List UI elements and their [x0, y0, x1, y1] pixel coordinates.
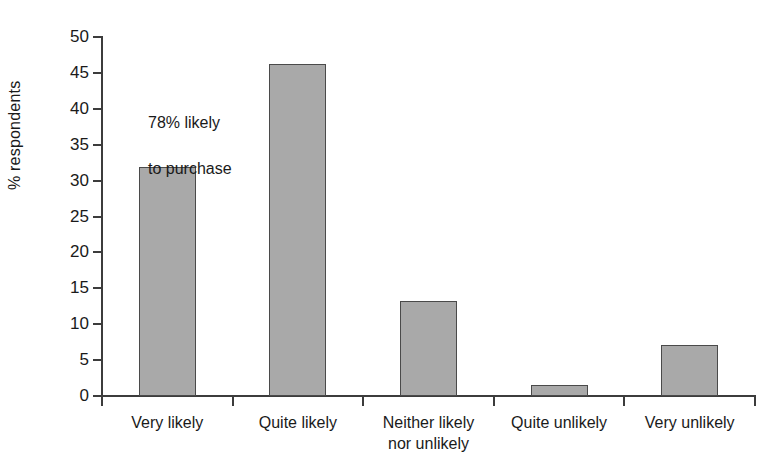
y-axis-tick-label-text: 25	[45, 208, 89, 225]
annotation-purchase-intent: 78% likely to purchase	[148, 88, 232, 203]
x-axis-category-label: Neither likelynor unlikely	[357, 412, 500, 454]
y-axis-tick-label: 20	[39, 243, 89, 260]
x-axis-category-label: Very likely	[96, 412, 239, 433]
y-axis-tick-label-text: 20	[45, 243, 89, 260]
y-axis-tick	[93, 323, 101, 325]
x-axis-category-label-line: Quite unlikely	[488, 412, 631, 433]
y-axis-tick-label: 30	[39, 172, 89, 189]
y-axis-tick-label-text: 45	[45, 64, 89, 81]
x-axis-tick	[623, 397, 625, 406]
x-axis-category-label: Very unlikely	[618, 412, 761, 433]
y-axis-tick	[93, 216, 101, 218]
y-axis-tick-label: 50	[39, 28, 89, 45]
y-axis-tick	[93, 36, 101, 38]
x-axis-category-label-line: Very likely	[96, 412, 239, 433]
x-axis-category-label-line: Quite likely	[227, 412, 370, 433]
y-axis-tick	[93, 287, 101, 289]
x-axis-category-label-line: Neither likely	[357, 412, 500, 433]
y-axis-tick	[93, 72, 101, 74]
y-axis-line	[101, 36, 103, 397]
y-axis-tick	[93, 395, 101, 397]
y-axis-tick-label-text: 50	[45, 28, 89, 45]
x-axis-tick	[754, 397, 756, 406]
x-axis-category-label: Quite likely	[227, 412, 370, 433]
bar	[400, 301, 457, 396]
plot-area: 50454035302520151050 Very likelyQuite li…	[0, 0, 782, 475]
x-axis-tick	[493, 397, 495, 406]
annotation-line-2: to purchase	[148, 157, 232, 180]
y-axis-tick	[93, 251, 101, 253]
y-axis-tick-label: 0	[39, 387, 89, 404]
y-axis-tick-label-text: 0	[45, 387, 89, 404]
x-axis-category-label: Quite unlikely	[488, 412, 631, 433]
y-axis-tick	[93, 108, 101, 110]
y-axis-tick	[93, 359, 101, 361]
annotation-line-1: 78% likely	[148, 111, 232, 134]
x-axis-tick	[232, 397, 234, 406]
bar	[269, 64, 326, 396]
y-axis-tick-label: 35	[39, 136, 89, 153]
x-axis-tick	[362, 397, 364, 406]
y-axis-tick-label-text: 5	[45, 351, 89, 368]
y-axis-tick-label: 15	[39, 279, 89, 296]
y-axis-tick	[93, 144, 101, 146]
y-axis-tick-label-text: 10	[45, 315, 89, 332]
y-axis-tick-label-text: 15	[45, 279, 89, 296]
y-axis-tick-label: 5	[39, 351, 89, 368]
x-axis-category-label-line: nor unlikely	[357, 433, 500, 454]
y-axis-tick-label-text: 30	[45, 172, 89, 189]
y-axis-tick-label: 45	[39, 64, 89, 81]
y-axis-tick-label: 25	[39, 208, 89, 225]
bar	[531, 385, 588, 396]
y-axis-tick-label-text: 40	[45, 100, 89, 117]
y-axis-tick-label: 40	[39, 100, 89, 117]
y-axis-tick-label: 10	[39, 315, 89, 332]
bar-chart: % respondents 50454035302520151050 Very …	[0, 0, 782, 475]
x-axis-category-label-line: Very unlikely	[618, 412, 761, 433]
x-axis-tick	[101, 397, 103, 406]
y-axis-tick-label-text: 35	[45, 136, 89, 153]
bar	[661, 345, 718, 396]
y-axis-tick	[93, 180, 101, 182]
